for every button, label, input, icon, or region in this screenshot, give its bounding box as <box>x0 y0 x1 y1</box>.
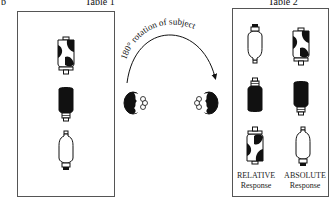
subject-head-right <box>195 92 219 114</box>
table2-black-bottle-flipped <box>248 78 262 112</box>
relative-response-label: RELATIVE Response <box>233 171 279 191</box>
table1-black-bottle <box>59 88 73 122</box>
subject-head-left <box>124 92 148 114</box>
table2-patterned-bottle <box>293 28 309 65</box>
absolute-line2: Response <box>281 181 329 191</box>
absolute-line1: ABSOLUTE <box>281 171 329 181</box>
table2-black-bottle <box>294 82 308 116</box>
table1-white-bottle <box>59 131 73 170</box>
table2-patterned-bottle-flipped <box>247 127 263 164</box>
diagram-canvas: 180° rotation of subject <box>0 0 329 197</box>
absolute-response-label: ABSOLUTE Response <box>281 171 329 191</box>
table2-white-bottle-flipped <box>248 24 262 63</box>
rotation-arrow <box>127 35 215 83</box>
table1-patterned-bottle <box>58 37 74 74</box>
relative-line1: RELATIVE <box>233 171 279 181</box>
relative-line2: Response <box>233 181 279 191</box>
table2-white-bottle <box>296 127 310 166</box>
